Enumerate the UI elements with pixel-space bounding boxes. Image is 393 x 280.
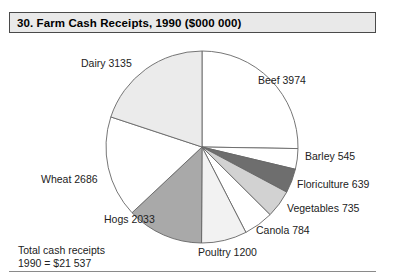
total-note-line1: Total cash receipts (18, 244, 105, 257)
pie-chart (0, 0, 393, 280)
figure-farm-cash-receipts: 30. Farm Cash Receipts, 1990 ($000 000) … (0, 0, 393, 280)
bottom-divider (9, 271, 376, 272)
total-note-line2: 1990 = $21 537 (18, 257, 105, 270)
pie-slice-beef (202, 51, 298, 149)
slice-label-barley: Barley 545 (305, 150, 355, 162)
total-cash-receipts-note: Total cash receipts 1990 = $21 537 (18, 244, 105, 269)
slice-label-hogs: Hogs 2033 (104, 213, 155, 225)
slice-label-poultry: Poultry 1200 (198, 246, 257, 258)
slice-label-dairy: Dairy 3135 (81, 57, 132, 69)
pie-chart-svg (0, 0, 393, 280)
slice-label-floriculture: Floriculture 639 (297, 178, 369, 190)
slice-label-beef: Beef 3974 (258, 74, 306, 86)
slice-label-canola: Canola 784 (256, 224, 310, 236)
slice-label-wheat: Wheat 2686 (41, 173, 98, 185)
slice-label-vegetables: Vegetables 735 (287, 202, 359, 214)
